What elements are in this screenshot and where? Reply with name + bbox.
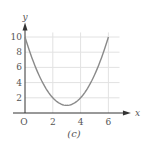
tick-labels: 246246810Oxy [11,12,140,127]
y-tick-label: 2 [16,93,22,103]
x-axis-label: x [135,108,140,118]
x-axis-arrow-icon [123,111,131,116]
x-tick-label: 4 [78,117,84,127]
origin-label: O [20,117,27,127]
parabola-curve [25,37,108,105]
y-tick-label: 10 [11,32,23,42]
data-curve [25,37,108,105]
y-tick-label: 4 [16,78,22,88]
x-tick-label: 2 [50,117,56,127]
y-tick-label: 6 [16,62,22,72]
chart-caption: (c) [0,128,148,139]
y-axis-arrow-icon [23,23,28,31]
y-tick-label: 8 [16,47,22,57]
y-axis-label: y [21,12,28,22]
x-tick-label: 6 [106,117,112,127]
